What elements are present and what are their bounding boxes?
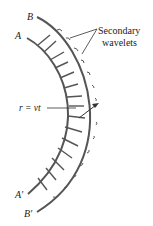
label-secondary: Secondary [98, 25, 140, 36]
label-wavelets: wavelets [102, 37, 137, 48]
label-b: B [27, 11, 33, 22]
wavelets-pointer-lines [70, 29, 97, 54]
wavefront-b [37, 17, 90, 212]
huygens-diagram: B A Secondary wavelets r = vt A′ B′ [0, 0, 153, 226]
label-a-prime: A′ [14, 189, 24, 200]
label-radius: r = vt [19, 103, 41, 113]
label-a: A [14, 30, 22, 41]
radius-arrow [79, 105, 96, 118]
label-b-prime: B′ [24, 208, 33, 219]
